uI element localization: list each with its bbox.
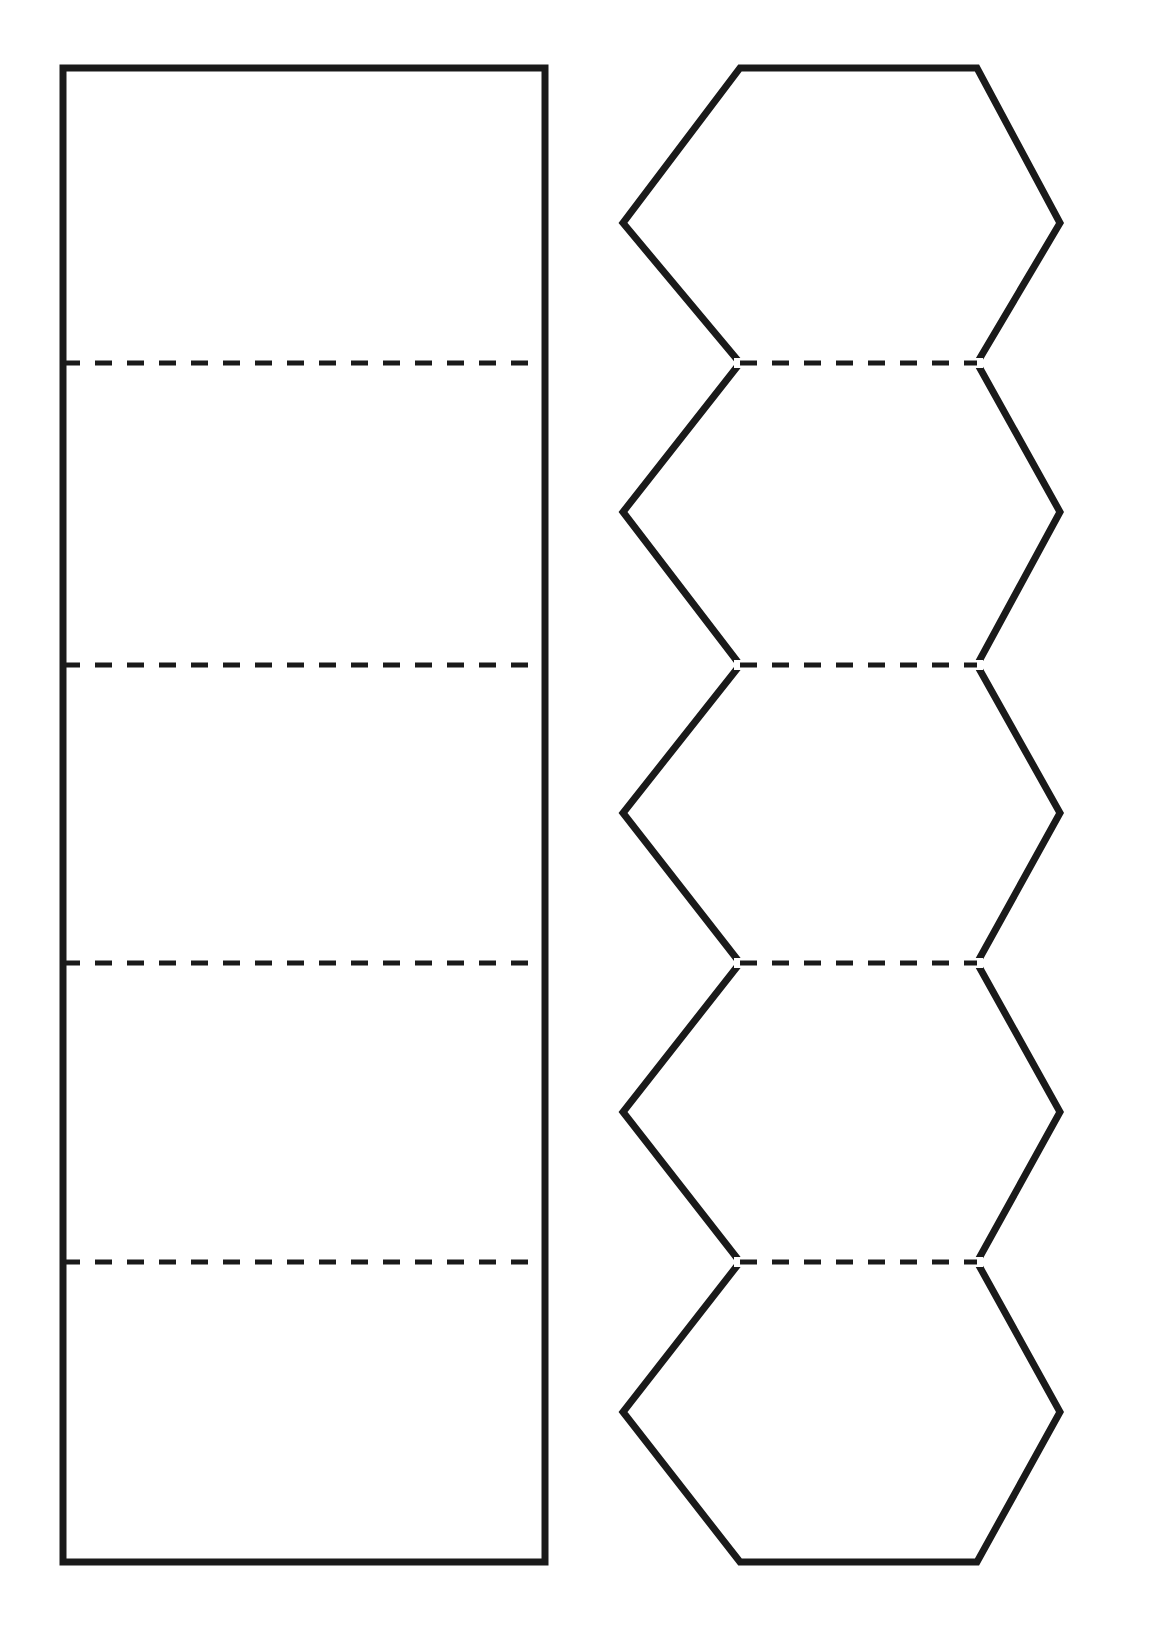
hexagon-strip [623,68,1060,1562]
diagram-canvas [0,0,1166,1626]
rectangle-outline [63,68,545,1562]
net-template-svg [0,0,1166,1626]
rectangle-strip [63,68,545,1562]
